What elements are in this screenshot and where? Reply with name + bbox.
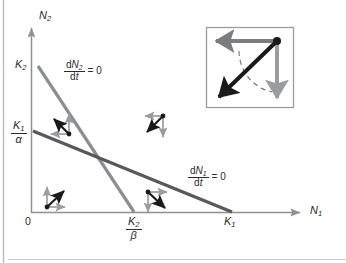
vector-addition-inset bbox=[207, 28, 294, 108]
vector-resultant-up-right bbox=[47, 191, 64, 207]
vector-resultant-down-left bbox=[147, 116, 163, 132]
x-tick-label-k2-over-beta: K2 β bbox=[126, 216, 142, 241]
inset-origin-dot bbox=[273, 37, 281, 45]
phase-plane-plot bbox=[0, 0, 346, 263]
y-axis-label: N2 bbox=[39, 10, 51, 22]
isocline-label-dn2-dt-zero: dN2 dt = 0 bbox=[64, 60, 102, 82]
isocline-label-dn1-dt-zero: dN1 dt = 0 bbox=[188, 166, 226, 188]
vector-origin-dot bbox=[161, 114, 166, 119]
vector-origin-dot bbox=[146, 190, 151, 195]
vector-triple-upper-right bbox=[145, 114, 165, 137]
origin-label: 0 bbox=[25, 216, 31, 227]
vector-triple-upper-left bbox=[51, 114, 71, 136]
vector-triple-lower-left bbox=[45, 187, 65, 209]
vector-origin-dot bbox=[67, 132, 72, 137]
y-tick-label-k2: K2 bbox=[15, 59, 27, 71]
x-axis-label: N1 bbox=[310, 205, 322, 217]
vector-origin-dot bbox=[45, 205, 50, 210]
vector-resultant-down-right bbox=[148, 192, 165, 208]
vector-triple-lower-middle bbox=[146, 190, 167, 212]
vector-resultant-up-left bbox=[54, 119, 69, 134]
x-tick-label-k1: K1 bbox=[224, 216, 236, 228]
competition-isocline-figure: N2 N1 0 K2 K1 α K2 β K1 dN2 dt = 0 dN1 d… bbox=[0, 0, 346, 263]
y-tick-label-k1-over-alpha: K1 α bbox=[11, 120, 27, 145]
